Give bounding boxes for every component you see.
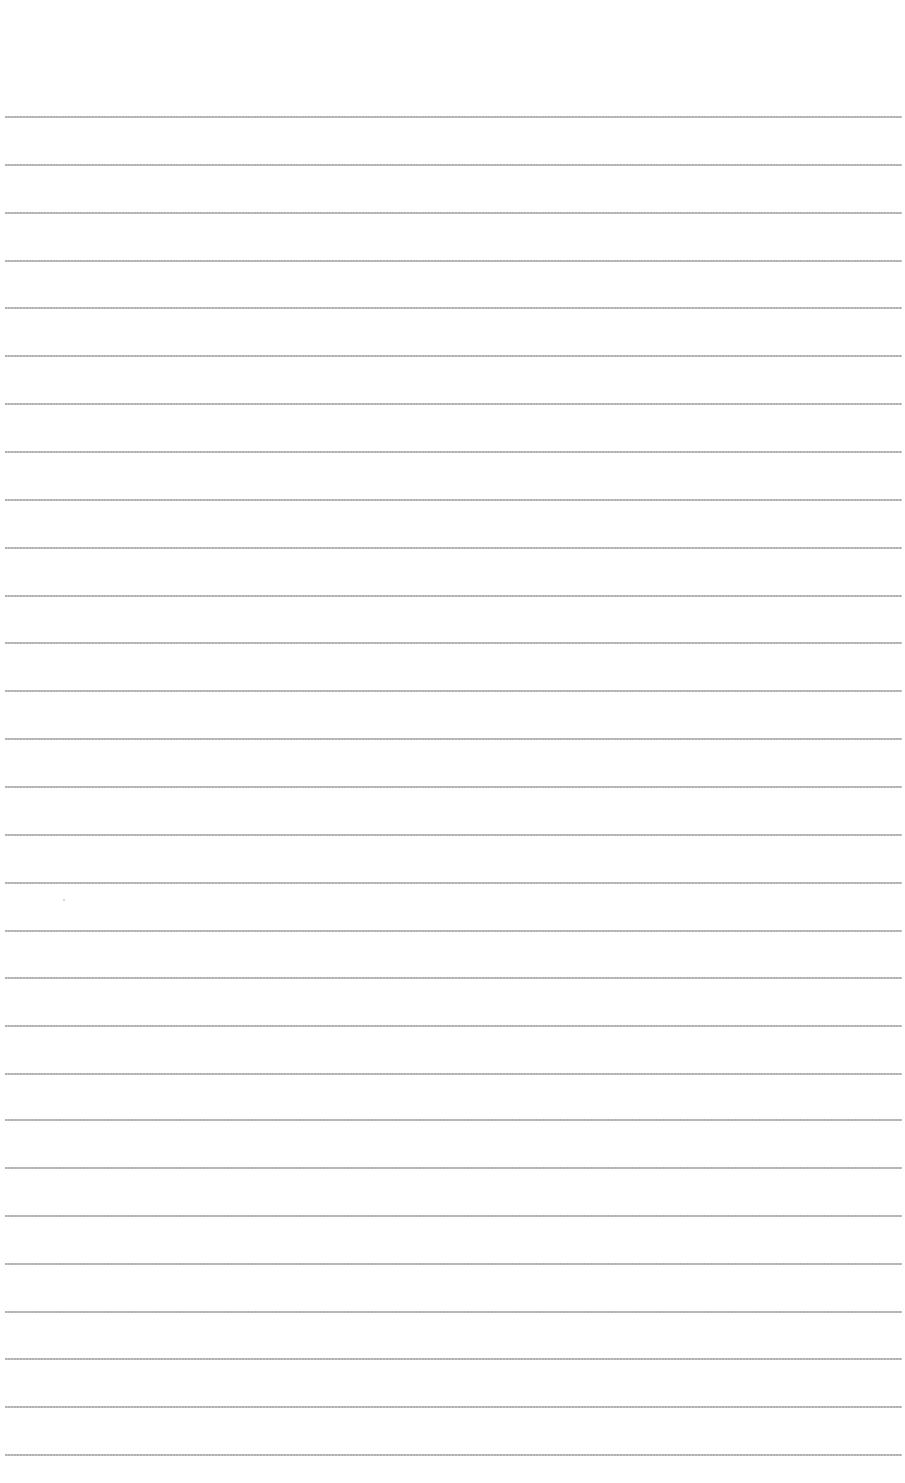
ruled-line bbox=[5, 595, 902, 597]
ruled-line bbox=[5, 1358, 902, 1360]
ruled-line bbox=[5, 834, 902, 836]
ruled-line bbox=[5, 116, 902, 118]
ruled-line bbox=[5, 1454, 902, 1456]
ruled-line bbox=[5, 642, 902, 644]
ruled-line bbox=[5, 977, 902, 979]
ruled-line bbox=[5, 1167, 902, 1169]
ruled-line bbox=[5, 164, 902, 166]
ruled-line bbox=[5, 1073, 902, 1075]
ruled-line bbox=[5, 212, 902, 214]
ruled-line bbox=[5, 1311, 902, 1313]
ruled-line bbox=[5, 307, 902, 309]
ruled-line bbox=[5, 355, 902, 357]
ruled-line bbox=[5, 1263, 902, 1265]
ruled-line bbox=[5, 451, 902, 453]
ruled-line bbox=[5, 499, 902, 501]
paper-speck bbox=[63, 899, 65, 901]
ruled-line bbox=[5, 738, 902, 740]
lined-paper bbox=[0, 0, 905, 1483]
ruled-line bbox=[5, 882, 902, 884]
ruled-line bbox=[5, 930, 902, 932]
ruled-line bbox=[5, 786, 902, 788]
ruled-line bbox=[5, 1215, 902, 1217]
ruled-line bbox=[5, 260, 902, 262]
ruled-line bbox=[5, 690, 902, 692]
ruled-line bbox=[5, 1119, 902, 1121]
ruled-line bbox=[5, 403, 902, 405]
ruled-line bbox=[5, 547, 902, 549]
ruled-line bbox=[5, 1025, 902, 1027]
ruled-line bbox=[5, 1406, 902, 1408]
